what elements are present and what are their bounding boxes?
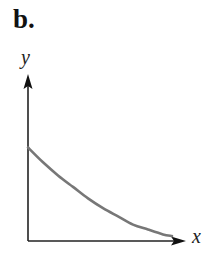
data-curve [28, 148, 172, 237]
chart-plot [0, 0, 206, 259]
